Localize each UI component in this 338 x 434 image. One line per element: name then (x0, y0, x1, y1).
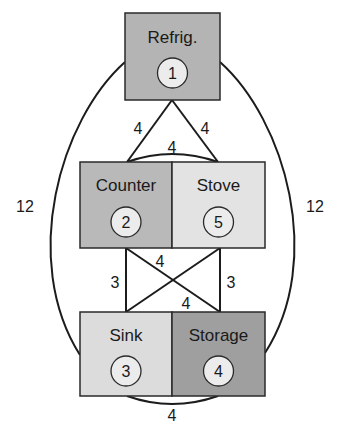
node-stove: Stove 5 (172, 162, 265, 248)
edge-refrig-stove (172, 100, 218, 162)
node-refrig: Refrig. 1 (125, 13, 220, 100)
weight-refrig-stove: 4 (201, 120, 210, 137)
weight-counter-storage: 4 (156, 253, 165, 270)
node-number: 4 (214, 363, 223, 380)
node-counter: Counter 2 (80, 162, 172, 248)
edge-sink-storage (127, 396, 218, 404)
node-label: Sink (109, 326, 143, 345)
weight-counter-sink: 3 (111, 274, 120, 291)
node-sink: Sink 3 (80, 312, 172, 396)
node-number: 3 (122, 363, 131, 380)
node-number: 2 (122, 214, 131, 231)
node-storage: Storage 4 (172, 312, 265, 396)
node-label: Storage (189, 326, 249, 345)
weight-refrig-sink: 12 (16, 198, 34, 215)
kitchen-layout-graph: Refrig. 1 Counter 2 Stove 5 Sink 3 Stora… (0, 0, 338, 434)
weight-stove-sink: 4 (182, 295, 191, 312)
node-label: Refrig. (147, 28, 197, 47)
node-label: Counter (96, 176, 157, 195)
weight-refrig-storage: 12 (306, 198, 324, 215)
weight-counter-stove: 4 (168, 139, 177, 156)
weight-sink-storage: 4 (168, 407, 177, 424)
node-label: Stove (197, 176, 240, 195)
weight-refrig-counter: 4 (134, 120, 143, 137)
weight-stove-storage: 3 (227, 274, 236, 291)
node-number: 5 (214, 214, 223, 231)
node-number: 1 (168, 65, 177, 82)
